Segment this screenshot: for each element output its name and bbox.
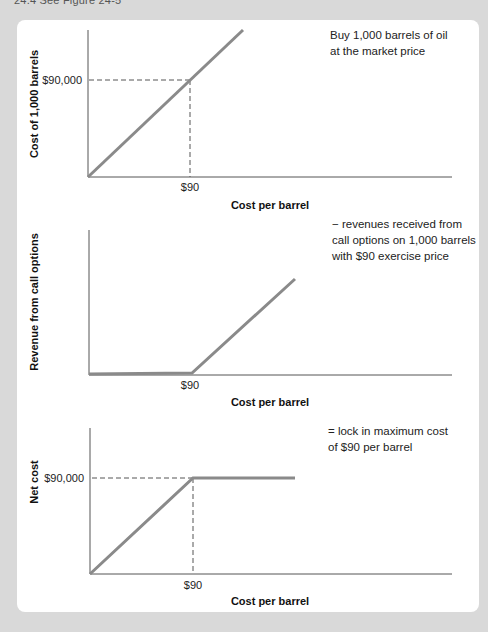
chart-2-annotation: − revenues received from call options on…	[332, 216, 476, 264]
annotation-line: with $90 exercise price	[332, 248, 476, 264]
cost-line	[88, 30, 243, 177]
figure-svg: $90,000 $90 Cost per barrel Cost of 1,00…	[0, 0, 488, 632]
annotation-line: Buy 1,000 barrels of oil	[330, 27, 448, 43]
x-axis-label: Cost per barrel	[231, 396, 309, 408]
x-tick-label: $90	[181, 379, 199, 391]
annotation-line: of $90 per barrel	[328, 439, 448, 455]
x-tick-label: $90	[184, 579, 202, 591]
annotation-line: call options on 1,000 barrels	[332, 232, 476, 248]
x-axis-label: Cost per barrel	[231, 595, 309, 607]
call-payoff-line	[89, 279, 295, 374]
annotation-line: at the market price	[330, 43, 448, 59]
annotation-line: − revenues received from	[332, 216, 476, 232]
x-axis-label: Cost per barrel	[231, 199, 309, 211]
chart-1-annotation: Buy 1,000 barrels of oil at the market p…	[330, 27, 448, 59]
x-tick-label: $90	[181, 181, 199, 193]
chart-3-annotation: = lock in maximum cost of $90 per barrel	[328, 423, 448, 455]
annotation-line: = lock in maximum cost	[328, 423, 448, 439]
y-tick-label: $90,000	[42, 74, 82, 86]
y-axis-label: Net cost	[28, 460, 40, 504]
y-axis-label: Cost of 1,000 barrels	[28, 50, 40, 158]
y-tick-label: $90,000	[44, 472, 84, 484]
y-axis-label: Revenue from call options	[28, 233, 40, 371]
